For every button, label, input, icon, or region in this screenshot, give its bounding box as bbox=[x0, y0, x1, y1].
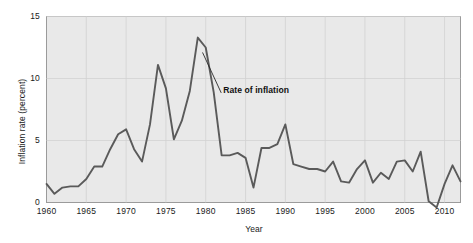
annotation-label: Rate of inflation bbox=[223, 85, 289, 95]
x-tick-label: 1990 bbox=[265, 206, 305, 216]
y-tick-label: 0 bbox=[14, 197, 40, 207]
x-tick-label: 1975 bbox=[146, 206, 186, 216]
x-tick-label: 1980 bbox=[186, 206, 226, 216]
x-tick-label: 2000 bbox=[345, 206, 385, 216]
x-tick-label: 1985 bbox=[226, 206, 266, 216]
gridlines bbox=[47, 17, 461, 203]
x-tick-label: 1960 bbox=[27, 206, 67, 216]
y-tick-label: 15 bbox=[14, 11, 40, 21]
inflation-rate-chart: Inflation rate (percent) Year 051015 196… bbox=[0, 0, 473, 243]
x-tick-label: 2005 bbox=[385, 206, 425, 216]
y-tick-label: 10 bbox=[14, 73, 40, 83]
x-tick-label: 1965 bbox=[66, 206, 106, 216]
x-axis-label: Year bbox=[46, 224, 462, 234]
x-tick-label: 1970 bbox=[106, 206, 146, 216]
series-lines bbox=[47, 38, 461, 208]
series-line-0 bbox=[47, 38, 461, 208]
x-tick-label: 1995 bbox=[305, 206, 345, 216]
y-tick-label: 5 bbox=[14, 135, 40, 145]
x-tick-label: 2010 bbox=[425, 206, 465, 216]
